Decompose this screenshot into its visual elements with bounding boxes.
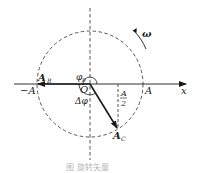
- label-half-amp-den: 2: [120, 99, 126, 108]
- label-delta-phi: Δφ: [74, 96, 88, 106]
- label-origin: O: [80, 84, 88, 95]
- label-phase-b-sub: B: [81, 77, 86, 83]
- label-pos-a: A: [144, 85, 152, 96]
- rotating-vector-diagram: −A A x O A B φ B Δφ A 2 A C ω 图 旋转矢量: [0, 0, 198, 173]
- label-neg-a: −A: [20, 85, 36, 96]
- label-x: x: [181, 85, 187, 96]
- figure-caption: 图 旋转矢量: [66, 162, 109, 172]
- label-vector-c: A: [112, 130, 121, 141]
- label-vector-b-sub: B: [46, 77, 52, 84]
- vector-a-c: [90, 84, 117, 128]
- label-half-amp-num: A: [120, 89, 127, 98]
- label-omega: ω: [142, 28, 152, 39]
- label-vector-b: A: [37, 72, 46, 83]
- label-vector-c-sub: C: [121, 135, 126, 142]
